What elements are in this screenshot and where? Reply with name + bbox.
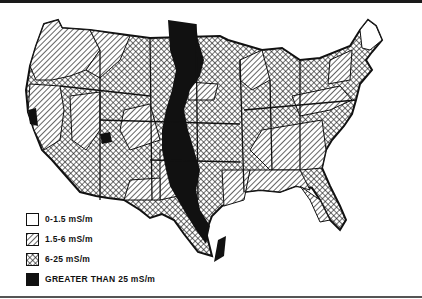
- legend-item-low: 0-1.5 mS/m: [26, 210, 155, 228]
- map-legend: 0-1.5 mS/m 1.5-6 mS/m 6-25 mS/m GREATER …: [26, 210, 155, 290]
- legend-label: 6-25 mS/m: [45, 254, 90, 264]
- blank-swatch-icon: [26, 213, 39, 226]
- legend-label: 1.5-6 mS/m: [45, 234, 93, 244]
- bottom-border: [0, 296, 422, 298]
- diagonal-hatch-swatch-icon: [26, 233, 39, 246]
- solid-black-swatch-icon: [26, 273, 39, 286]
- legend-item-medium-high: 6-25 mS/m: [26, 250, 155, 268]
- legend-label: GREATER THAN 25 mS/m: [45, 274, 155, 284]
- legend-label: 0-1.5 mS/m: [45, 214, 93, 224]
- legend-item-high: GREATER THAN 25 mS/m: [26, 270, 155, 288]
- legend-item-medium-low: 1.5-6 mS/m: [26, 230, 155, 248]
- cross-hatch-swatch-icon: [26, 253, 39, 266]
